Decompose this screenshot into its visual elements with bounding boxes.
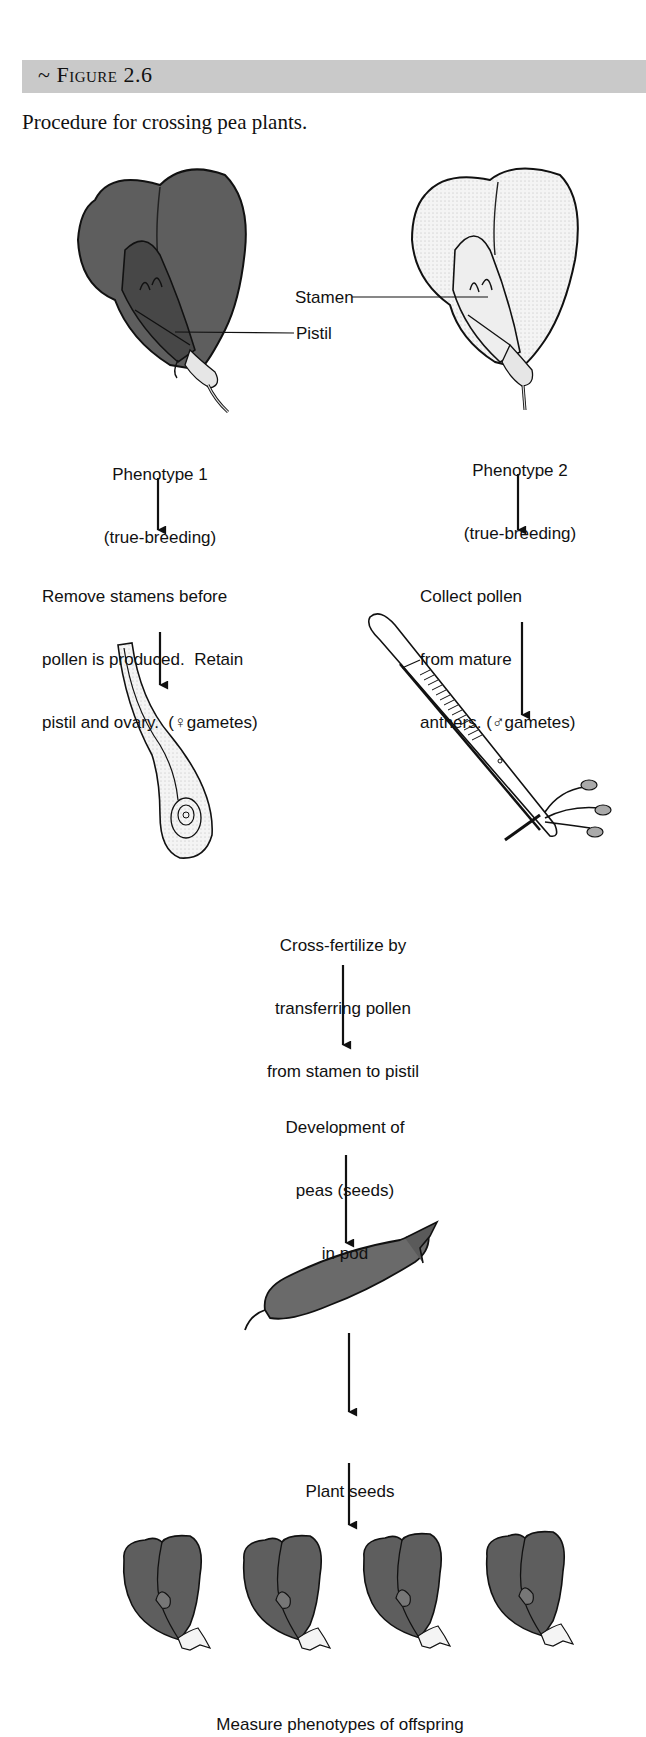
development-step: Development of peas (seeds) in pod — [255, 1075, 435, 1285]
female-prep-line-1: Remove stamens before — [42, 586, 258, 607]
offspring-flowers — [124, 1532, 573, 1650]
female-prep-step: Remove stamens before pollen is produced… — [42, 544, 258, 754]
measure-line: Measure phenotypes of offspring — [170, 1714, 510, 1735]
development-line-3: in pod — [255, 1243, 435, 1264]
male-prep-line-1: Collect pollen — [420, 586, 575, 607]
offspring-pea-flower-icon — [124, 1536, 210, 1650]
phenotype2-subtitle: (true-breeding) — [430, 523, 610, 544]
offspring-pea-flower-icon — [487, 1532, 573, 1646]
development-line-1: Development of — [255, 1117, 435, 1138]
plant-seeds-step: Plant seeds — [270, 1439, 430, 1523]
measure-phenotypes-step: Measure phenotypes of offspring — [170, 1672, 510, 1737]
phenotype1-title: Phenotype 1 — [70, 464, 250, 485]
pistil-label: Pistil — [296, 323, 332, 344]
male-prep-step: Collect pollen from mature anthers. (♂ga… — [420, 544, 575, 754]
light-pea-flower-icon — [412, 169, 578, 410]
offspring-pea-flower-icon — [364, 1534, 450, 1648]
stamen-label: Stamen — [295, 287, 354, 308]
development-line-2: peas (seeds) — [255, 1180, 435, 1201]
plant-seeds-line: Plant seeds — [270, 1481, 430, 1502]
phenotype2-label: Phenotype 2 (true-breeding) — [430, 418, 610, 565]
female-prep-line-3: pistil and ovary. (♀gametes) — [42, 712, 258, 733]
phenotype2-title: Phenotype 2 — [430, 460, 610, 481]
cross-fertilize-step: Cross-fertilize by transferring pollen f… — [223, 893, 463, 1103]
dark-pea-flower-icon — [78, 169, 246, 412]
male-prep-line-3: anthers. (♂gametes) — [420, 712, 575, 733]
cross-line-1: Cross-fertilize by — [223, 935, 463, 956]
male-prep-line-2: from mature — [420, 649, 575, 670]
female-prep-line-2: pollen is produced. Retain — [42, 649, 258, 670]
offspring-pea-flower-icon — [244, 1536, 330, 1650]
cross-line-2: transferring pollen — [223, 998, 463, 1019]
